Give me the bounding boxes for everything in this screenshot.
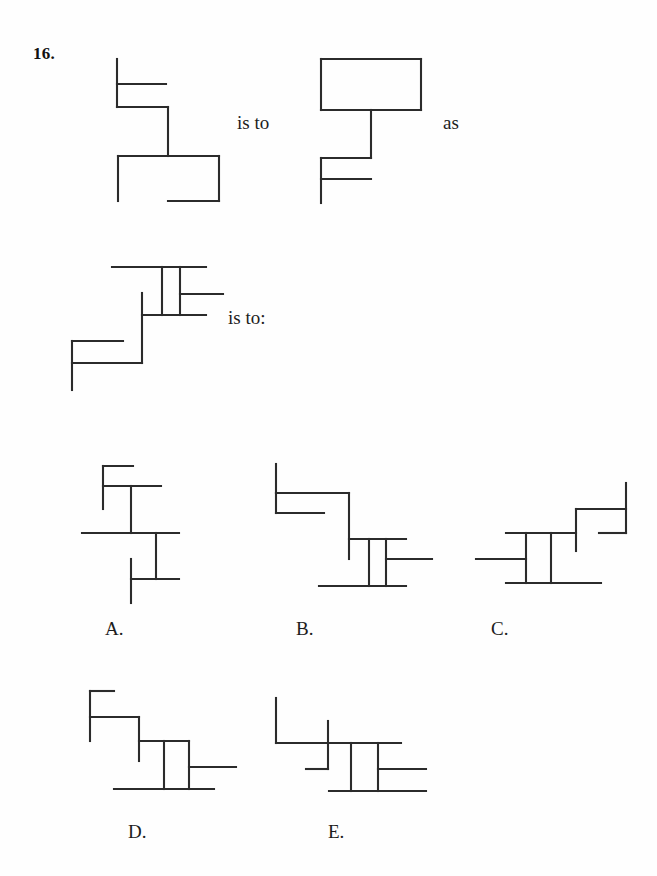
worksheet-page: 16. is to as is to: A. B. C. D. E. (0, 0, 657, 876)
option-label-c[interactable]: C. (491, 618, 508, 640)
option-label-d[interactable]: D. (128, 821, 146, 843)
figure-prompt-a (117, 59, 219, 201)
connector-is-to-first: is to (237, 112, 269, 134)
figure-option-a[interactable] (82, 466, 179, 603)
figure-option-e[interactable] (276, 698, 426, 791)
option-label-b[interactable]: B. (296, 618, 313, 640)
option-label-e[interactable]: E. (328, 821, 344, 843)
option-label-a[interactable]: A. (105, 618, 123, 640)
connector-as: as (443, 112, 459, 134)
figure-prompt-b (321, 59, 421, 203)
figure-canvas (0, 0, 657, 876)
question-number: 16. (33, 44, 55, 64)
figure-option-b[interactable] (276, 464, 432, 586)
connector-is-to-second: is to: (228, 307, 265, 329)
figure-option-c[interactable] (476, 483, 626, 583)
figure-option-d[interactable] (90, 691, 236, 789)
figure-question (72, 267, 223, 390)
